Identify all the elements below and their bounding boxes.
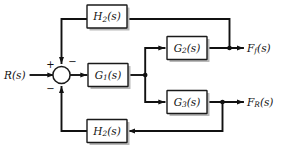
- block-g1-label: G1(s): [95, 69, 122, 83]
- input-label-r: R(s): [3, 69, 26, 81]
- block-diagram-svg: H2(s) G1(s) G2(s) G3(s): [0, 0, 287, 152]
- block-diagram-canvas: H2(s) G1(s) G2(s) G3(s): [0, 0, 287, 152]
- output-label-ff: Ff(s): [246, 42, 271, 56]
- block-h2-top-label: H2(s): [92, 10, 120, 24]
- output-label-fr: FR(s): [246, 96, 273, 110]
- summing-junction-circle: [53, 66, 70, 83]
- sign-input-plus: +: [46, 59, 54, 70]
- block-g2-label: G2(s): [174, 42, 201, 56]
- junction-dot-tap-g3-output: [220, 100, 225, 105]
- block-h2-bottom-label: H2(s): [92, 125, 120, 139]
- block-g3[interactable]: G3(s): [167, 91, 210, 117]
- block-g2[interactable]: G2(s): [167, 37, 210, 63]
- wire-h2-bottom-to-sum: [62, 87, 88, 131]
- wire-branch-to-g3: [145, 75, 164, 102]
- sign-feedback-top-minus: −: [68, 56, 76, 67]
- summing-junction[interactable]: [53, 66, 70, 83]
- block-h2-top[interactable]: H2(s): [87, 5, 130, 31]
- block-h2-bottom[interactable]: H2(s): [87, 120, 130, 146]
- wire-branch-to-g2: [145, 48, 164, 75]
- block-g3-label: G3(s): [174, 96, 201, 110]
- junction-dot-branch-g1-output: [143, 73, 148, 78]
- junction-dot-tap-g2-output: [227, 46, 232, 51]
- sign-feedback-bottom-minus: −: [46, 83, 54, 94]
- block-g1[interactable]: G1(s): [88, 64, 131, 90]
